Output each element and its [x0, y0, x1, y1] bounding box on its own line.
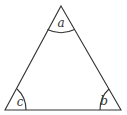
- angle-label-b: b: [100, 94, 108, 108]
- angle-label-c: c: [17, 95, 24, 109]
- angle-label-a: a: [57, 16, 64, 30]
- triangle-diagram: a b c: [0, 0, 127, 115]
